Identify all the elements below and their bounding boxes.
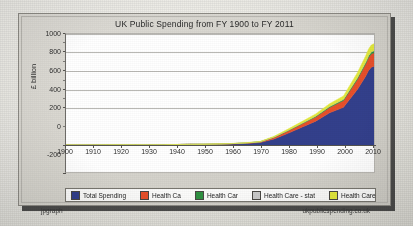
- plot-canvas: [65, 33, 375, 145]
- x-tick-label-1980: 1980: [276, 148, 302, 155]
- legend-item-label: Health Care - stat: [264, 192, 315, 199]
- footer-left-label: jpgraph: [41, 207, 63, 214]
- x-tick-label-1950: 1950: [192, 148, 218, 155]
- y-tick-label-600: 600: [31, 67, 61, 74]
- legend-item-label: Health Ca: [152, 192, 181, 199]
- legend-item-4[interactable]: Health Care: [329, 191, 376, 200]
- legend-swatch-icon-3: [252, 191, 261, 200]
- legend-item-label: Health Car: [207, 192, 238, 199]
- x-tick-label-1920: 1920: [108, 148, 134, 155]
- y-axis-labels: 1000 800 600 400 200 0 -200: [27, 14, 61, 226]
- x-tick-label-1930: 1930: [136, 148, 162, 155]
- y-tick-neg200: [63, 173, 66, 174]
- chart-title: UK Public Spending from FY 1900 to FY 20…: [19, 19, 390, 29]
- chart-card: UK Public Spending from FY 1900 to FY 20…: [18, 13, 391, 206]
- x-tick-label-1960: 1960: [220, 148, 246, 155]
- stacked-area-series: [66, 34, 374, 145]
- legend-item-label: Health Care: [341, 192, 376, 199]
- x-tick-label-1990: 1990: [304, 148, 330, 155]
- chart-legend: Total SpendingHealth CaHealth CarHealth …: [65, 188, 376, 202]
- x-tick-label-1940: 1940: [164, 148, 190, 155]
- x-tick-label-1900: 1900: [52, 148, 78, 155]
- y-tick-label-800: 800: [31, 48, 61, 55]
- legend-swatch-icon-4: [329, 191, 338, 200]
- y-tick-label-200: 200: [31, 104, 61, 111]
- legend-swatch-icon-2: [195, 191, 204, 200]
- x-axis-line: [65, 145, 376, 146]
- x-tick-label-2010: 2010: [360, 148, 386, 155]
- legend-item-3[interactable]: Health Care - stat: [252, 191, 315, 200]
- y-tick-label-400: 400: [31, 86, 61, 93]
- footer-right-label: ukpublicspending.co.uk: [302, 207, 370, 214]
- legend-swatch-icon-1: [140, 191, 149, 200]
- x-axis-labels: 1900 1910 1920 1930 1940 1950 1960 1970 …: [19, 148, 413, 160]
- legend-item-0[interactable]: Total Spending: [71, 191, 126, 200]
- y-tick-label-0: 0: [31, 123, 61, 130]
- legend-item-2[interactable]: Health Car: [195, 191, 238, 200]
- y-tick-label-1000: 1000: [31, 30, 61, 37]
- plot-area: [65, 33, 375, 145]
- legend-swatch-icon-0: [71, 191, 80, 200]
- chart-image: UK Public Spending from FY 1900 to FY 20…: [0, 0, 413, 226]
- legend-item-label: Total Spending: [83, 192, 126, 199]
- x-tick-label-1910: 1910: [80, 148, 106, 155]
- x-tick-label-2000: 2000: [332, 148, 358, 155]
- legend-item-1[interactable]: Health Ca: [140, 191, 181, 200]
- x-tick-label-1970: 1970: [248, 148, 274, 155]
